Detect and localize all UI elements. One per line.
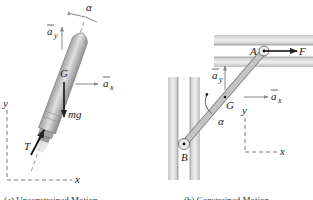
x-axis-label-a: x — [74, 173, 80, 185]
ax-sub-b: x — [277, 96, 282, 105]
alpha-label-a: α — [86, 1, 92, 13]
ay-label-b: a — [212, 69, 218, 81]
x-axis-label-b: x — [279, 145, 285, 157]
ay-sub-b: y — [218, 75, 223, 84]
force-f-label: F — [298, 45, 306, 57]
upper-guide-bottom — [214, 57, 313, 67]
mg-label: mg — [68, 108, 82, 120]
thrust-label: T — [24, 140, 31, 152]
ax-label-b: a — [271, 90, 277, 102]
y-axis-label-b: y — [241, 104, 247, 116]
figure-canvas: α a y G mg a x T y x — [0, 0, 313, 200]
side-guide-left — [168, 77, 178, 180]
ax-sub-a: x — [109, 83, 114, 92]
figure-a-unconstrained: α a y G mg a x T y x — [2, 1, 114, 200]
alpha-rotation-arrow-a — [72, 14, 97, 22]
ay-sub-a: y — [53, 31, 58, 40]
alpha-label-b: α — [218, 115, 224, 127]
caption-a: (a) Unconstrained Motion — [4, 195, 98, 200]
figure-b-constrained: A F B G a y a x α y x (b) Constrained Mo… — [168, 35, 313, 200]
y-axis-label-a: y — [2, 97, 8, 109]
ay-label-a: a — [47, 25, 53, 37]
g-label-b: G — [226, 99, 234, 111]
caption-b: (b) Constrained Motion — [184, 195, 269, 200]
point-b-label: B — [181, 151, 188, 163]
point-a-label: A — [249, 45, 257, 57]
ax-label-a: a — [103, 77, 109, 89]
g-label-a: G — [60, 67, 68, 79]
upper-guide-top — [214, 35, 313, 45]
center-g-dot — [224, 96, 227, 99]
